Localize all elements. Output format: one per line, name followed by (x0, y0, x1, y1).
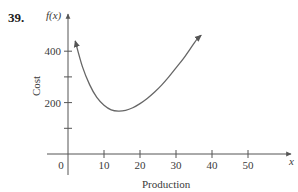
x-axis-title: Production (142, 178, 191, 190)
axes: 01020304050200400 (45, 14, 292, 175)
cost-curve-line (75, 35, 201, 111)
y-tick-label: 400 (45, 45, 62, 57)
x-tick-label: 0 (58, 159, 64, 171)
x-tick-label: 40 (207, 159, 219, 171)
x-tick-label: 20 (135, 159, 147, 171)
y-tick-label: 200 (45, 97, 62, 109)
cost-function-chart: 01020304050200400 x f(x) Production Cost (0, 0, 298, 192)
y-axis-title: Cost (30, 76, 42, 96)
x-tick-label: 30 (171, 159, 183, 171)
x-tick-label: 10 (99, 159, 111, 171)
x-axis-variable: x (288, 155, 294, 167)
x-tick-label: 50 (243, 159, 255, 171)
y-axis-variable: f(x) (46, 9, 62, 22)
cost-curve (75, 35, 201, 111)
